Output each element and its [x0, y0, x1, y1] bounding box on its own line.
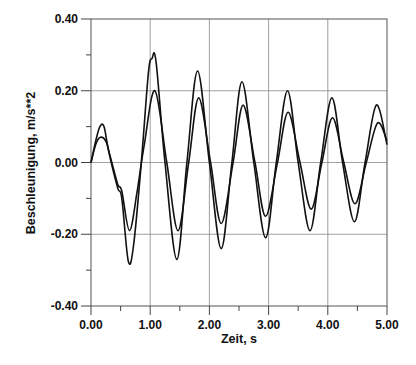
x-axis-label: Zeit, s	[221, 332, 257, 346]
line-chart: 0.001.002.003.004.005.00 0.400.200.00-0.…	[0, 0, 416, 365]
y-tick-label: 0.20	[55, 84, 79, 98]
x-tick-label: 4.00	[316, 318, 340, 332]
x-tick-label: 2.00	[198, 318, 222, 332]
y-tick-labels: 0.400.200.00-0.20-0.40	[51, 12, 79, 313]
y-axis-label: Beschleunigung, m/s**2	[24, 92, 38, 234]
axis-ticks	[81, 19, 387, 315]
y-tick-label: 0.00	[55, 156, 79, 170]
x-tick-label: 3.00	[257, 318, 281, 332]
y-tick-label: 0.40	[55, 12, 79, 26]
x-tick-label: 0.00	[79, 318, 103, 332]
x-tick-label: 5.00	[375, 318, 399, 332]
x-tick-label: 1.00	[139, 318, 163, 332]
y-tick-label: -0.20	[51, 227, 79, 241]
y-tick-label: -0.40	[51, 299, 79, 313]
x-tick-labels: 0.001.002.003.004.005.00	[79, 318, 399, 332]
series-line-inner	[91, 91, 387, 231]
data-series	[91, 53, 387, 264]
